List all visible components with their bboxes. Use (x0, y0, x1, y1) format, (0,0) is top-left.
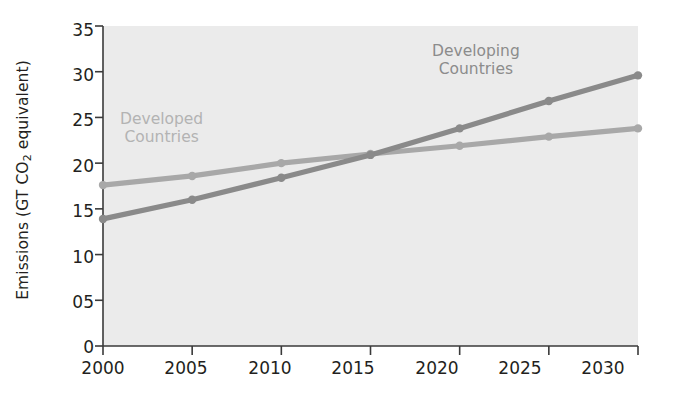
data-point-marker (188, 196, 196, 204)
data-point-marker (455, 142, 463, 150)
series-annotation-developing: Developing Countries (432, 42, 520, 79)
data-point-marker (366, 151, 374, 159)
series-annotation-developed-line2: Countries (120, 128, 203, 146)
data-point-marker (99, 215, 107, 223)
series-annotation-developing-line2: Countries (432, 60, 520, 78)
series-line-developing (103, 75, 638, 219)
data-point-marker (277, 174, 285, 182)
chart-axes (95, 26, 638, 355)
chart-series (99, 71, 642, 223)
series-annotation-developed-line1: Developed (120, 110, 203, 128)
data-point-marker (277, 159, 285, 167)
series-annotation-developing-line1: Developing (432, 42, 520, 60)
chart-canvas (0, 0, 673, 406)
data-point-marker (545, 132, 553, 140)
data-point-marker (99, 181, 107, 189)
data-point-marker (455, 124, 463, 132)
emissions-line-chart: Emissions (GT CO2 equivalent) 35 30 25 2… (0, 0, 673, 406)
data-point-marker (188, 172, 196, 180)
data-point-marker (545, 97, 553, 105)
series-annotation-developed: Developed Countries (120, 110, 203, 147)
data-point-marker (634, 124, 642, 132)
data-point-marker (634, 71, 642, 79)
